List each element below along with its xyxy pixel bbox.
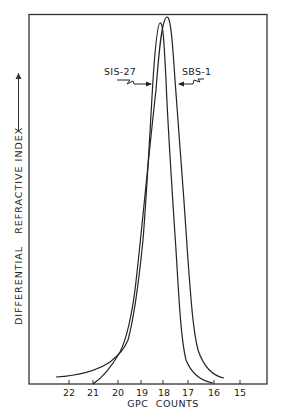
y-axis-arrow-head-icon	[16, 73, 22, 79]
x-axis-tick-labels: 22 21 20 19 18 17 16 15	[63, 387, 246, 398]
tick-label-16: 16	[208, 387, 220, 398]
tick-label-15: 15	[234, 387, 246, 398]
series-label-sbs-1[interactable]: SBS-1	[182, 66, 211, 77]
sis-27-arrow-head-icon	[146, 82, 152, 87]
gpc-chart: 22 21 20 19 18 17 16 15 GPC COUNTS DIFFE…	[0, 0, 282, 417]
series-label-sis-27[interactable]: SIS-27	[104, 66, 136, 77]
plot-frame	[29, 15, 267, 385]
x-axis-title: GPC COUNTS	[127, 398, 199, 409]
y-axis-title-group: DIFFERENTIAL REFRACTIVE INDEX	[13, 73, 24, 325]
sis-27-pointer-arrow-icon	[117, 80, 151, 84]
tick-label-19: 19	[136, 387, 148, 398]
tick-label-18: 18	[158, 387, 170, 398]
tick-label-20: 20	[112, 387, 124, 398]
sbs-1-arrow-head-icon	[178, 82, 184, 87]
tick-label-17: 17	[182, 387, 194, 398]
tick-label-22: 22	[63, 387, 75, 398]
y-axis-title: DIFFERENTIAL REFRACTIVE INDEX	[13, 127, 24, 325]
tick-label-21: 21	[87, 387, 99, 398]
